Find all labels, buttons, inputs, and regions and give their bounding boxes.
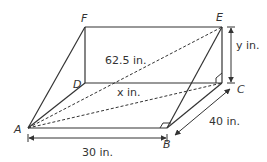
label-30: 30 in. (82, 146, 113, 159)
ramp-diagram: F E D C A B 62.5 in. x in. y in. 30 in. … (0, 0, 267, 162)
dimension-lines (28, 27, 235, 142)
vertex-D: D (73, 78, 81, 91)
vertex-B: B (163, 138, 171, 151)
label-62-5: 62.5 in. (105, 54, 147, 67)
edge-BE (167, 27, 222, 128)
label-40: 40 in. (209, 115, 240, 128)
vertex-E: E (216, 11, 223, 24)
vertex-F: F (81, 12, 88, 25)
label-y: y in. (236, 39, 260, 52)
dimension-40 (175, 89, 230, 135)
label-x: x in. (117, 86, 141, 99)
right-angle-C (216, 73, 222, 83)
vertex-C: C (237, 83, 245, 96)
vertex-A: A (13, 123, 22, 136)
